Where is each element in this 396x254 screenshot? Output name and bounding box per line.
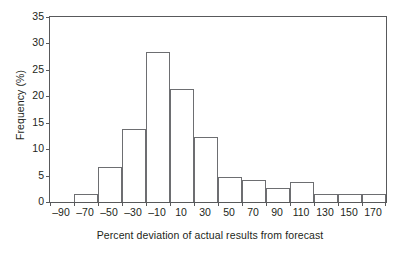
histogram-bar (170, 89, 194, 202)
histogram-bar (242, 180, 266, 202)
y-axis-tick-mark (46, 176, 50, 177)
histogram-bar (194, 137, 218, 202)
y-axis-tick-label: 0 (22, 196, 44, 206)
histogram-bar (338, 194, 362, 202)
histogram-bar (146, 52, 170, 202)
plot-area (49, 16, 387, 203)
y-axis-tick-mark (46, 149, 50, 150)
y-axis-tick-label: 25 (22, 64, 44, 74)
histogram-bar (74, 194, 98, 202)
histogram-bar (98, 167, 122, 202)
histogram-bar (314, 194, 338, 202)
bars-container (50, 17, 386, 202)
y-axis-tick-labels: 05101520253035 (22, 16, 44, 203)
y-axis-tick-mark (46, 17, 50, 18)
y-axis-tick-label: 20 (22, 90, 44, 100)
histogram-figure: Frequency (%) 05101520253035 –90–70–50–3… (0, 0, 396, 254)
histogram-bar (362, 194, 386, 202)
histogram-bar (266, 188, 290, 202)
y-axis-tick-label: 10 (22, 143, 44, 153)
y-axis-tick-label: 15 (22, 117, 44, 127)
y-axis-tick-label: 35 (22, 11, 44, 21)
histogram-bar (290, 182, 314, 202)
y-axis-tick-mark (46, 123, 50, 124)
x-axis-tick-labels: –90–70–50–30–101030507090110130150170 (49, 206, 387, 222)
x-axis-title: Percent deviation of actual results from… (40, 229, 380, 241)
y-axis-tick-mark (46, 70, 50, 71)
histogram-bar (218, 177, 242, 202)
y-axis-tick-mark (46, 96, 50, 97)
y-axis-tick-label: 5 (22, 170, 44, 180)
y-axis-tick-label: 30 (22, 37, 44, 47)
histogram-bar (122, 129, 146, 202)
x-axis-tick-label: 170 (353, 206, 393, 218)
y-axis-tick-mark (46, 43, 50, 44)
